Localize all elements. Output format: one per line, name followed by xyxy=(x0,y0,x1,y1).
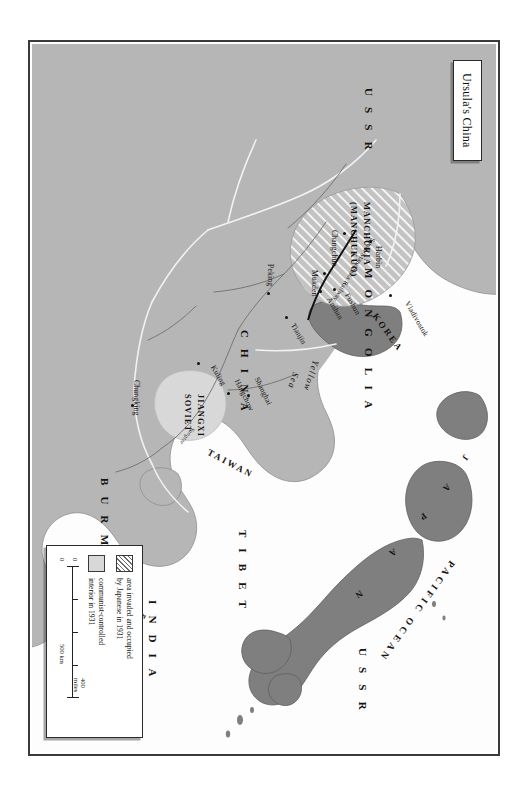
legend-text: communist-controlled interior in 1931 xyxy=(86,578,107,645)
scale-tick xyxy=(72,632,78,633)
japan-shikoku xyxy=(268,674,301,706)
scale-label-km: 500 km xyxy=(59,644,66,664)
legend-item-japanese-occupied: area invaded and occupied by Japanese in… xyxy=(114,555,135,727)
country-label-tibet: T I B E T xyxy=(237,530,248,612)
scale-zero-miles: 0 xyxy=(72,558,79,561)
japan-hokkaido xyxy=(406,461,472,541)
legend-text: area invaded and occupied by Japanese in… xyxy=(114,578,135,659)
map-frame: U S S R U S S R M O N G O L I A C H I N … xyxy=(28,40,500,756)
legend-item-communist-interior: communist-controlled interior in 1931 xyxy=(86,555,107,727)
map-legend: area invaded and occupied by Japanese in… xyxy=(46,545,143,738)
rotated-map-plate: U S S R U S S R M O N G O L I A C H I N … xyxy=(32,44,496,752)
map-title: Ursula's China xyxy=(460,73,474,148)
scale-tick xyxy=(72,665,78,666)
legend-scale-bar: 0 400 miles 0 500 km xyxy=(55,555,79,727)
country-label-ussr-south: U S S R xyxy=(357,648,368,714)
map-title-box: Ursula's China xyxy=(453,60,482,161)
scale-label-miles: 400 miles xyxy=(73,678,87,698)
legend-swatch-light-gray xyxy=(89,555,106,572)
legend-swatch-hatched xyxy=(116,555,133,572)
country-label-mongolia: M O N G O L I A xyxy=(363,268,374,413)
sakhalin xyxy=(437,392,488,440)
scale-km: 0 500 km xyxy=(55,566,68,698)
map-page: U S S R U S S R M O N G O L I A C H I N … xyxy=(0,0,525,793)
scale-tick xyxy=(67,566,79,567)
country-label-ussr: U S S R xyxy=(363,88,374,154)
scale-zero-km: 0 xyxy=(59,558,66,561)
scale-tick xyxy=(72,599,78,600)
